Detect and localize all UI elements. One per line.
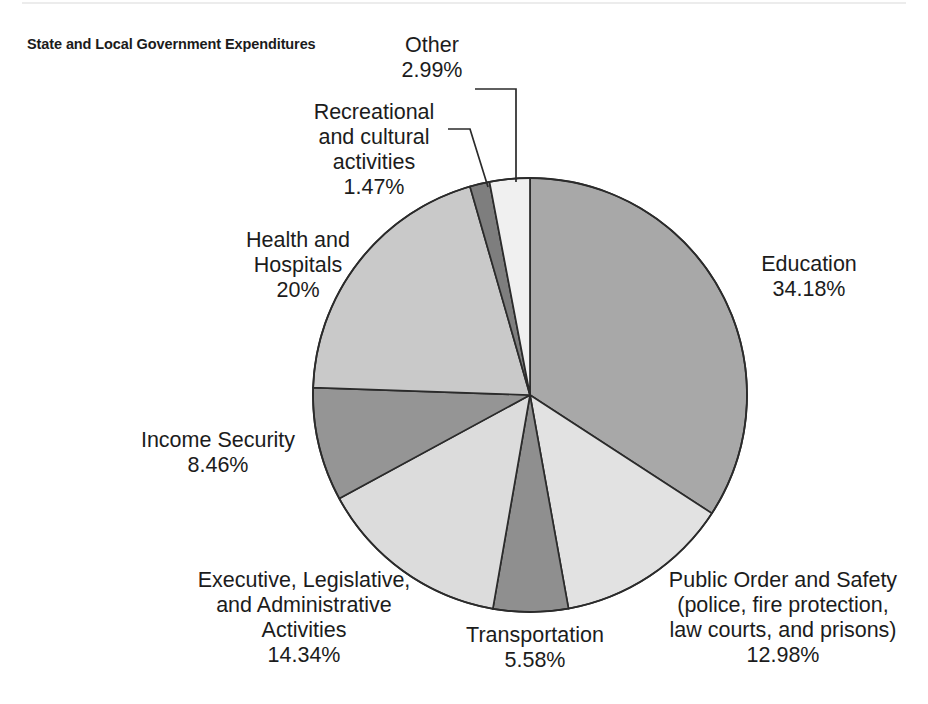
slice-label-income-security: Income Security 8.46% <box>118 428 318 478</box>
slice-label-health-and-hospitals: Health and Hospitals 20% <box>207 228 389 303</box>
slice-label-education: Education 34.18% <box>714 252 904 302</box>
slice-label-transportation: Transportation 5.58% <box>430 623 640 673</box>
chart-page: State and Local Government Expenditures … <box>0 0 928 704</box>
slice-label-recreational-and-cultural-activities: Recreational and cultural activities 1.4… <box>268 100 480 200</box>
slice-label-executive-legislative-administrative: Executive, Legislative, and Administrati… <box>154 568 454 668</box>
slice-label-public-order-and-safety: Public Order and Safety (police, fire pr… <box>640 568 926 668</box>
slice-label-other: Other 2.99% <box>352 33 512 83</box>
leader-line-other <box>475 89 516 182</box>
